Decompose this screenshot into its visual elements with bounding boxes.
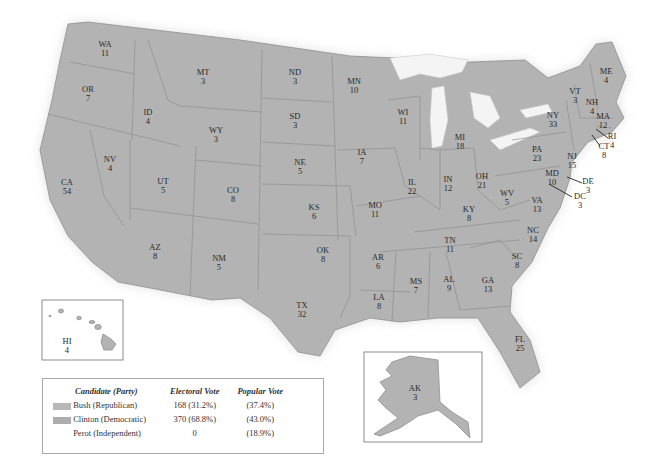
- state-label-nm: NM5: [212, 254, 226, 272]
- state-electoral-votes: 14: [527, 235, 539, 244]
- state-label-ms: MS7: [410, 277, 422, 295]
- state-label-tn: TN11: [444, 236, 455, 254]
- legend-electoral: 168 (31.2%): [150, 398, 223, 412]
- state-electoral-votes: 33: [547, 120, 559, 129]
- legend-popular: (37.4%): [223, 398, 287, 412]
- state-label-nv: NV4: [104, 155, 116, 173]
- state-label-ky: KY8: [463, 205, 475, 223]
- state-electoral-votes: 7: [410, 286, 422, 295]
- state-label-ut: UT5: [157, 177, 168, 195]
- state-label-wa: WA11: [98, 40, 111, 58]
- state-label-nd: ND3: [289, 68, 301, 86]
- state-electoral-votes: 8: [599, 151, 610, 160]
- state-label-mn: MN10: [347, 77, 361, 95]
- state-label-oh: OH21: [476, 172, 488, 190]
- state-electoral-votes: 9: [443, 284, 454, 293]
- state-label-ny: NY33: [547, 111, 559, 129]
- legend-popular-header: Popular Vote: [223, 384, 287, 398]
- clinton-swatch: [53, 417, 71, 424]
- state-label-tx: TX32: [296, 301, 307, 319]
- alaska-label: AK 3: [409, 384, 421, 402]
- state-electoral-votes: 12: [444, 184, 453, 193]
- state-electoral-votes: 5: [212, 263, 226, 272]
- state-label-nj: NJ15: [567, 152, 576, 170]
- state-label-or: OR7: [82, 85, 94, 103]
- state-electoral-votes: 23: [532, 154, 542, 163]
- alaska-inset-map: [364, 352, 482, 442]
- state-label-ks: KS6: [309, 203, 320, 221]
- state-label-ar: AR6: [372, 253, 384, 271]
- state-label-az: AZ8: [149, 243, 160, 261]
- state-electoral-votes: 11: [98, 49, 111, 58]
- hawaii-inset-map: [42, 300, 123, 360]
- state-electoral-votes: 4: [600, 76, 613, 85]
- state-label-mi: MI18: [455, 133, 465, 151]
- state-label-ma: MA12: [596, 112, 610, 130]
- legend-candidate: Clinton (Democratic): [73, 414, 146, 424]
- state-electoral-votes: 3: [209, 135, 223, 144]
- state-electoral-votes: 22: [408, 187, 417, 196]
- state-electoral-votes: 6: [309, 212, 320, 221]
- legend-candidate: Bush (Republican): [73, 400, 137, 410]
- state-electoral-votes: 8: [317, 255, 329, 264]
- state-label-mt: MT3: [197, 68, 210, 86]
- state-electoral-votes: 8: [463, 214, 475, 223]
- state-electoral-votes: 5: [294, 167, 305, 176]
- state-electoral-votes: 4: [63, 346, 72, 355]
- state-label-sd: SD3: [290, 112, 301, 130]
- state-electoral-votes: 3: [409, 393, 421, 402]
- state-label-sc: SC8: [512, 252, 522, 270]
- state-electoral-votes: 3: [289, 77, 301, 86]
- legend-header-row: Candidate (Party) Electoral Vote Popular…: [49, 384, 287, 398]
- state-electoral-votes: 11: [398, 117, 409, 126]
- state-label-wi: WI11: [398, 108, 409, 126]
- legend-candidate: Perot (Independent): [73, 428, 141, 438]
- state-electoral-votes: 7: [358, 157, 367, 166]
- state-electoral-votes: 11: [444, 245, 455, 254]
- state-label-id: ID4: [144, 108, 153, 126]
- legend: Candidate (Party) Electoral Vote Popular…: [42, 378, 324, 454]
- state-electoral-votes: 8: [512, 261, 522, 270]
- state-label-nc: NC14: [527, 226, 539, 244]
- state-label-co: CO8: [227, 186, 239, 204]
- state-electoral-votes: 15: [567, 161, 576, 170]
- state-electoral-votes: 4: [144, 117, 153, 126]
- state-label-wy: WY3: [209, 126, 223, 144]
- state-electoral-votes: 11: [368, 210, 382, 219]
- state-electoral-votes: 3: [197, 77, 210, 86]
- state-electoral-votes: 25: [515, 344, 525, 353]
- legend-row-perot: Perot (Independent) 0 (18.9%): [49, 426, 287, 440]
- state-label-ne: NE5: [294, 158, 305, 176]
- state-electoral-votes: 54: [61, 187, 73, 196]
- legend-electoral: 0: [150, 426, 223, 440]
- state-electoral-votes: 21: [476, 181, 488, 190]
- legend-candidate-header: Candidate (Party): [49, 384, 150, 398]
- state-label-ia: IA7: [358, 148, 367, 166]
- legend-popular: (18.9%): [223, 426, 287, 440]
- state-electoral-votes: 10: [347, 86, 361, 95]
- state-electoral-votes: 3: [290, 121, 301, 130]
- state-label-il: IL22: [408, 178, 417, 196]
- state-electoral-votes: 8: [149, 252, 160, 261]
- state-electoral-votes: 13: [482, 285, 494, 294]
- state-label-ok: OK8: [317, 246, 329, 264]
- state-label-mo: MO11: [368, 201, 382, 219]
- state-label-vt: VT3: [569, 87, 580, 105]
- perot-swatch: [53, 431, 71, 438]
- state-label-in: IN12: [444, 175, 453, 193]
- state-electoral-votes: 5: [500, 198, 514, 207]
- hawaii-label: HI 4: [63, 337, 72, 355]
- state-label-ct: CT8: [599, 142, 610, 160]
- state-electoral-votes: 12: [596, 121, 610, 130]
- state-electoral-votes: 3: [569, 96, 580, 105]
- legend-popular: (43.0%): [223, 412, 287, 426]
- legend-row-bush: Bush (Republican) 168 (31.2%) (37.4%): [49, 398, 287, 412]
- state-label-wv: WV5: [500, 189, 514, 207]
- state-electoral-votes: 5: [157, 186, 168, 195]
- state-label-fl: FL25: [515, 335, 525, 353]
- state-electoral-votes: 6: [372, 262, 384, 271]
- state-electoral-votes: 13: [531, 205, 542, 214]
- legend-row-clinton: Clinton (Democratic) 370 (68.8%) (43.0%): [49, 412, 287, 426]
- state-electoral-votes: 8: [227, 195, 239, 204]
- state-electoral-votes: 18: [455, 142, 465, 151]
